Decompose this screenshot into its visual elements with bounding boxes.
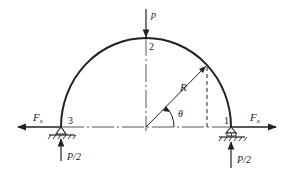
arch-diagram: p 2 1 3 R θ Fx Fx P/2 P/2 [0, 0, 289, 179]
angle-label-theta: θ [178, 108, 183, 119]
force-label-right-Fx: Fx [249, 111, 261, 125]
reaction-label-left: P/2 [66, 151, 81, 162]
pin-support-left [48, 127, 76, 139]
point-label-2: 2 [149, 41, 154, 52]
force-label-left-Fx: Fx [32, 111, 44, 125]
point-label-1: 1 [224, 115, 229, 126]
radius-line [146, 66, 206, 127]
roller-support-right [219, 127, 247, 141]
reaction-label-right: P/2 [236, 154, 251, 165]
load-label-p: p [150, 9, 156, 20]
point-label-3: 3 [68, 115, 73, 126]
radius-label-R: R [179, 81, 187, 93]
